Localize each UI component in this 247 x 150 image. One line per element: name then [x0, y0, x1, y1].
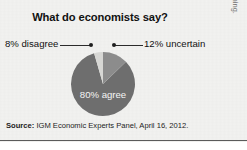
pie-label-disagree: 8% disagree	[5, 38, 58, 49]
leader-line-disagree	[60, 45, 92, 46]
credit-rail: Figure © 2018 Cengage Learning.	[212, 0, 247, 150]
leader-dot-disagree	[89, 43, 93, 47]
pie-label-uncertain: 12% uncertain	[144, 38, 205, 49]
leader-line-uncertain	[114, 45, 143, 46]
source-line: Source: IGM Economic Experts Panel, Apri…	[6, 121, 188, 130]
chart-panel: What do economists say? 80% agree 8% dis…	[0, 0, 212, 150]
copyright-credit: Figure © 2018 Cengage Learning.	[231, 0, 240, 14]
pie-svg	[69, 50, 137, 118]
chart-title: What do economists say?	[0, 11, 200, 23]
bottom-margin	[0, 142, 247, 150]
figure-container: What do economists say? 80% agree 8% dis…	[0, 0, 247, 150]
pie-label-agree: 80% agree	[69, 89, 137, 100]
pie-chart	[69, 50, 137, 118]
source-citation: IGM Economic Experts Panel, April 16, 20…	[34, 121, 188, 130]
leader-dot-uncertain	[112, 43, 116, 47]
bottom-divider	[0, 140, 247, 141]
source-label: Source:	[6, 121, 34, 130]
